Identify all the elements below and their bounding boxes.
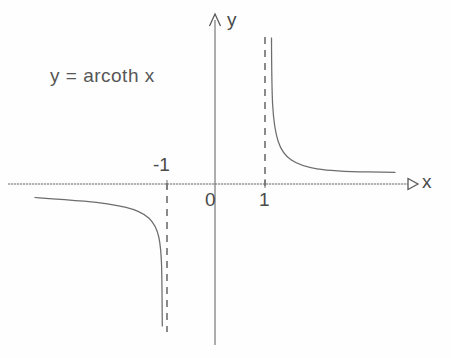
x-axis	[8, 179, 418, 190]
x-axis-label: x	[422, 172, 432, 191]
curve-right-branch	[272, 38, 396, 172]
tick-label-zero: 0	[205, 190, 216, 209]
equation-label: y = arcoth x	[50, 66, 155, 85]
tick-label-one: 1	[259, 190, 270, 209]
y-axis	[210, 14, 221, 345]
x-axis-arrowhead	[408, 179, 418, 190]
tick-label-negative-one: -1	[153, 155, 170, 174]
y-axis-label: y	[227, 10, 237, 29]
arcoth-function-plot: y = arcoth x x y -1 0 1	[0, 0, 451, 358]
curve-left-branch	[35, 198, 162, 327]
plot-canvas	[0, 0, 451, 358]
